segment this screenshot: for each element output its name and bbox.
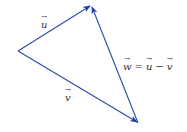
label-w-equation: w=u−v bbox=[123, 62, 172, 72]
vector-v-label: v bbox=[65, 93, 71, 103]
equals-sign: = bbox=[135, 61, 143, 72]
vector-v-term: v bbox=[167, 62, 173, 72]
vector-u-term: u bbox=[146, 62, 152, 72]
vector-w-label: w bbox=[123, 62, 132, 72]
vector-u-label: u bbox=[41, 20, 47, 30]
vector-v-arrow bbox=[18, 51, 137, 122]
minus-sign: − bbox=[155, 61, 163, 72]
vector-u-arrow bbox=[18, 6, 90, 51]
label-v: v bbox=[65, 93, 71, 103]
label-u: u bbox=[41, 20, 47, 30]
